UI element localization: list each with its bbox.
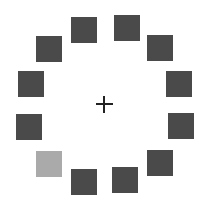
stimulus-display [0,0,206,207]
square-left-upper [18,71,44,97]
square-right-lower [168,113,194,139]
square-lower-right [147,150,173,176]
fixation-vertical-bar [103,96,105,113]
square-right-upper [166,71,192,97]
square-top-left-mid [71,17,97,43]
square-bottom-left-mid [71,169,97,195]
fixation-cross-icon [96,96,113,113]
square-upper-left [36,36,62,62]
square-upper-right [147,35,173,61]
square-top-right-mid [114,15,140,41]
square-left-lower [16,114,42,140]
square-bottom-right-mid [112,167,138,193]
square-lower-left [36,151,62,177]
